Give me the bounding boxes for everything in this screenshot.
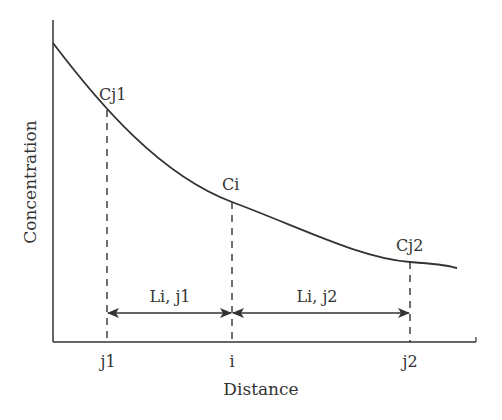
x-tick-label-j2: j2 <box>400 352 417 371</box>
x-axis-title: Distance <box>223 379 298 399</box>
point-label-cj1: Cj1 <box>99 85 126 104</box>
concentration-distance-diagram: Cj1 Ci Cj2 Li, j1 Li, j2 j1 i j2 Distanc… <box>0 0 502 420</box>
concentration-curve <box>53 43 457 268</box>
point-label-cj2: Cj2 <box>396 236 423 255</box>
point-label-ci: Ci <box>222 175 239 194</box>
distance-label-li-j2: Li, j2 <box>296 287 337 306</box>
distance-label-li-j1: Li, j1 <box>149 287 190 306</box>
x-tick-label-j1: j1 <box>98 352 115 371</box>
y-axis-title: Concentration <box>20 120 40 243</box>
x-tick-label-i: i <box>229 352 234 371</box>
